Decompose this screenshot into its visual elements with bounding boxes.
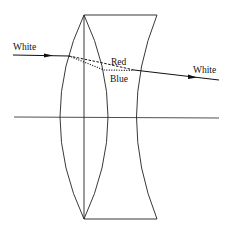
incoming-ray [13,55,69,56]
label-outgoing-white: White [193,65,216,75]
label-incoming-white: White [13,42,36,52]
concave-lens-right-surface [137,15,158,219]
doublet-diagram: White Red Blue White [0,0,227,235]
label-blue: Blue [110,74,128,84]
incoming-arrow-icon [44,54,53,58]
label-red: Red [111,57,127,67]
optical-axis [14,117,219,118]
